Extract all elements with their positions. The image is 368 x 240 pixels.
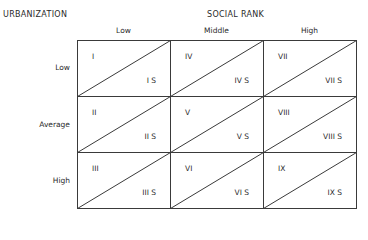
cell-sub-label: VIII S [323, 132, 342, 141]
cell-label: VIII [278, 108, 290, 117]
cell-label: I [92, 52, 94, 61]
cell-VIII: VIII VIII S [263, 96, 356, 152]
cell-sub-label: V S [237, 132, 249, 141]
cell-V: V V S [170, 96, 263, 152]
cell-label: II [92, 108, 96, 117]
cell-label: V [185, 108, 190, 117]
cell-label: VII [278, 52, 288, 61]
cell-III: III III S [77, 152, 170, 208]
cell-label: III [92, 164, 99, 173]
cell-VII: VII VII S [263, 40, 356, 96]
cell-VI: VI VI S [170, 152, 263, 208]
cell-IV: IV IV S [170, 40, 263, 96]
cell-label: IV [185, 52, 192, 61]
cell-sub-label: IV S [235, 76, 250, 85]
cell-sub-label: IX S [328, 188, 343, 197]
cell-I: I I S [77, 40, 170, 96]
cell-II: II II S [77, 96, 170, 152]
cell-IX: IX IX S [263, 152, 356, 208]
cell-sub-label: VI S [235, 188, 250, 197]
cell-sub-label: II S [144, 132, 156, 141]
cell-label: VI [185, 164, 192, 173]
cell-sub-label: III S [142, 188, 156, 197]
cell-sub-label: I S [147, 76, 156, 85]
cell-label: IX [278, 164, 285, 173]
cell-sub-label: VII S [325, 76, 342, 85]
